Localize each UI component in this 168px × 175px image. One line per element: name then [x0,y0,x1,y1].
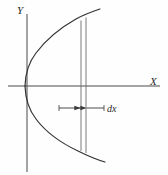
x-axis-label: X [149,75,158,87]
parabola-upper-branch [25,9,100,86]
parabola-figure-svg: Y X dx [0,0,168,175]
figure-container: Y X dx [0,0,168,175]
y-axis-label: Y [17,4,25,16]
dx-label: dx [107,103,117,114]
parabola-lower-branch [25,86,105,162]
